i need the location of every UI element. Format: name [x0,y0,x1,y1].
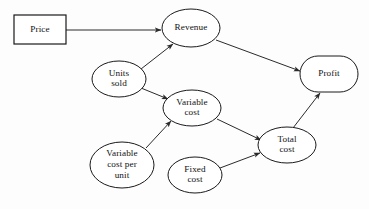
influence-diagram: PriceRevenueUnitssoldProfitVariablecostT… [0,0,369,209]
edge-revenue-to-profit [216,40,300,71]
node-shape-variable_cost_per_unit[interactable] [90,142,154,188]
node-price[interactable]: Price [14,15,66,44]
edge-variable-cost-per-unit-to-variable-cost [146,121,171,148]
node-fixed_cost[interactable]: Fixedcost [168,157,222,193]
edge-units-sold-to-variable-cost [141,88,168,99]
node-units_sold[interactable]: Unitssold [92,61,146,97]
node-shape-profit[interactable] [300,56,358,92]
node-variable_cost_per_unit[interactable]: Variablecost perunit [90,142,154,188]
edge-variable-cost-to-total-cost [217,119,261,140]
edge-total-cost-to-profit [293,93,320,128]
diagram-canvas: PriceRevenueUnitssoldProfitVariablecostT… [0,0,369,209]
node-shape-price[interactable] [14,15,66,44]
edge-units-sold-to-revenue [141,44,173,69]
node-revenue[interactable]: Revenue [162,9,220,47]
node-shape-units_sold[interactable] [92,61,146,97]
node-variable_cost[interactable]: Variablecost [163,90,221,126]
node-shape-total_cost[interactable] [258,127,316,163]
node-shape-revenue[interactable] [162,9,220,47]
node-shape-fixed_cost[interactable] [168,157,222,193]
node-profit[interactable]: Profit [300,56,358,92]
nodes-layer: PriceRevenueUnitssoldProfitVariablecostT… [14,9,358,193]
edge-fixed-cost-to-total-cost [220,153,260,168]
node-shape-variable_cost[interactable] [163,90,221,126]
node-total_cost[interactable]: Totalcost [258,127,316,163]
